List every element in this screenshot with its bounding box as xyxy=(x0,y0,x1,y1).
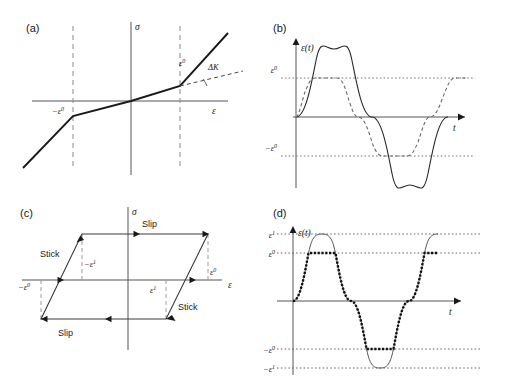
panel-a-eps0-neg-label: −ε0 xyxy=(52,106,64,116)
panel-c-eps1-neg-label: −ε1 xyxy=(84,259,96,269)
panel-c-eps0-pos-label: ε0 xyxy=(210,267,216,277)
panel-b-y-arrowhead xyxy=(293,38,300,45)
panel-c-eps0-neg-label: −ε0 xyxy=(18,282,30,292)
panel-c-stick-left-label: Stick xyxy=(40,249,60,259)
panel-a-extension-line xyxy=(180,71,243,86)
panel-c-slip-top-label: Slip xyxy=(142,219,157,229)
panel-a-delta-k-label: ΔK xyxy=(207,62,220,72)
panel-b-ylabel: ε(t) xyxy=(301,43,314,54)
panel-d-eps0-neg-label: −ε0 xyxy=(263,345,275,355)
panel-c-arrow-slip-top-1 xyxy=(134,231,141,237)
panel-b-xlabel: t xyxy=(453,123,456,133)
panel-a-xlabel: ε xyxy=(212,106,216,116)
panel-d-y-arrowhead xyxy=(290,226,297,233)
panel-c-label: (c) xyxy=(20,207,33,219)
panel-b-eps0-neg-label: −ε0 xyxy=(265,143,277,153)
panel-d: (d) t ε(t) ε1 ε0 −ε0 −ε1 xyxy=(253,195,505,390)
panel-a-label: (a) xyxy=(26,22,39,34)
panel-c-ylabel: σ xyxy=(132,207,137,217)
figure-panels: (a) ε σ ε0 −ε0 ΔK (b) xyxy=(0,0,505,390)
panel-a-delta-k-arc xyxy=(203,79,207,86)
panel-b: (b) t ε(t) ε0 −ε0 xyxy=(253,0,505,195)
panel-c-eps1-pos-label: ε1 xyxy=(150,285,156,295)
panel-c-arrow-slip-bottom-1 xyxy=(105,316,112,322)
panel-d-eps1-neg-label: −ε1 xyxy=(263,364,275,374)
panel-b-label: (b) xyxy=(273,22,286,34)
panel-c-xlabel: ε xyxy=(228,280,232,290)
panel-a-eps0-pos-label: ε0 xyxy=(179,58,185,68)
panel-a: (a) ε σ ε0 −ε0 ΔK xyxy=(0,0,253,195)
panel-c-arrow-mid-right xyxy=(190,277,197,283)
panel-d-xlabel: t xyxy=(449,307,452,317)
panel-b-x-arrowhead xyxy=(458,114,465,121)
panel-d-eps0-pos-label: ε0 xyxy=(269,249,275,259)
panel-c-arrow-stick-left xyxy=(77,236,85,243)
panel-a-ylabel: σ xyxy=(135,22,140,32)
panel-d-eps1-pos-label: ε1 xyxy=(269,230,275,240)
panel-c-slip-bottom-label: Slip xyxy=(58,328,73,338)
panel-d-label: (d) xyxy=(273,207,286,219)
panel-d-x-arrowhead xyxy=(454,298,461,305)
panel-c: (c) ε σ Stick Slip Stick xyxy=(0,195,253,390)
panel-c-stick-right-label: Stick xyxy=(178,302,198,312)
panel-b-eps0-pos-label: ε0 xyxy=(271,65,277,75)
